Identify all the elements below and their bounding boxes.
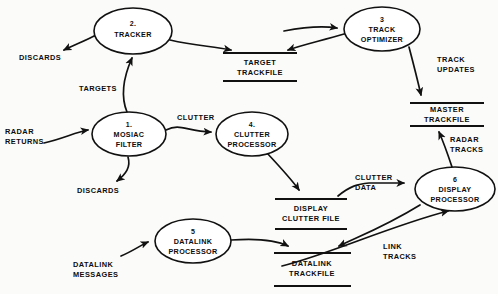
process-bubble-tracker[interactable]: 2. TRACKER: [94, 8, 172, 54]
flow-label-line2: UPDATES: [437, 65, 475, 74]
process-bubble-track-optimizer[interactable]: 3 TRACK OPTIMIZER: [344, 7, 420, 51]
process-name-line2: PROCESSOR: [168, 247, 218, 256]
process-bubble-display-processor[interactable]: 6 DISPLAY PROCESSOR: [415, 167, 495, 211]
flow-label-line1: CLUTTER: [355, 173, 393, 182]
flow-line-discards-mosiac: [117, 157, 129, 181]
data-flow-diagram: TARGET TRACKFILE MASTER TRACKFILE DISPLA…: [0, 0, 498, 294]
process-number: 4.: [249, 121, 255, 128]
flow-line-track-updates: [409, 47, 421, 95]
flow-label-line1: LINK: [383, 242, 402, 251]
store-label-line1: DATALINK: [292, 259, 332, 268]
data-store-datalink-trackfile: DATALINK TRACKFILE: [274, 253, 351, 286]
process-number: 2.: [130, 20, 136, 27]
process-name-line1: DATALINK: [174, 237, 213, 246]
flow-label-line1: TRACK: [437, 55, 465, 64]
process-name-line2: OPTIMIZER: [361, 35, 404, 44]
flow-line-clutter-processor-to-file: [267, 153, 299, 190]
flow-line-target-trackfile-to-optimizer: [284, 27, 337, 31]
process-number: 6: [453, 176, 457, 183]
flow-line-optimizer-to-target-trackfile: [288, 34, 344, 50]
flow-label-datalink-messages: DATALINK MESSAGES: [73, 260, 119, 279]
flow-label-line1: RADAR: [450, 135, 479, 144]
process-number: 1.: [126, 121, 132, 128]
flow-label-radar-returns: RADAR RETURNS: [5, 127, 44, 146]
process-name-line2: FILTER: [116, 140, 143, 149]
flow-line-display-processor-to-datalink-trackfile: [339, 205, 420, 246]
flow-line-datalink-messages: [121, 242, 148, 256]
process-number: 3: [380, 16, 384, 23]
data-store-master-trackfile: MASTER TRACKFILE: [410, 103, 484, 126]
flow-label-line1: DATALINK: [73, 260, 113, 269]
process-name-line1: CLUTTER: [234, 130, 270, 139]
process-name-line1: TRACK: [369, 25, 396, 34]
process-number: 5: [191, 228, 195, 235]
process-name-line1: DISPLAY: [439, 185, 472, 194]
store-label-line1: TARGET: [244, 58, 277, 67]
store-label-line1: DISPLAY: [294, 204, 329, 213]
store-label-line2: TRACKFILE: [424, 115, 470, 124]
process-bubble-datalink-processor[interactable]: 5 DATALINK PROCESSOR: [155, 219, 231, 263]
flow-label-link-tracks: LINK TRACKS: [383, 242, 417, 261]
flow-label-line2: TRACKS: [450, 145, 484, 154]
flow-label-line2: DATA: [355, 183, 376, 192]
process-name-line2: PROCESSOR: [227, 140, 277, 149]
flow-label-line1: CLUTTER: [177, 113, 215, 122]
flow-label-clutter: CLUTTER: [177, 113, 215, 122]
flow-label-discards-mosiac: DISCARDS: [77, 186, 119, 195]
data-store-target-trackfile: TARGET TRACKFILE: [223, 53, 297, 81]
flow-line-radar-returns: [44, 130, 88, 143]
flow-line-clutter: [166, 127, 211, 132]
diagram-canvas: TARGET TRACKFILE MASTER TRACKFILE DISPLA…: [0, 0, 498, 294]
flow-label-line1: TARGETS: [79, 84, 117, 93]
flow-label-line2: TRACKS: [383, 252, 417, 261]
process-name-line1: TRACKER: [114, 30, 152, 39]
process-bubble-clutter-processor[interactable]: 4. CLUTTER PROCESSOR: [216, 112, 288, 156]
flow-label-line1: DISCARDS: [19, 53, 61, 62]
store-label-line2: CLUTTER FILE: [282, 214, 340, 223]
flow-label-discards-tracker: DISCARDS: [19, 53, 61, 62]
flow-line-datalink-processor-to-trackfile: [231, 239, 288, 246]
store-label-line1: MASTER: [430, 105, 464, 114]
process-name-line1: MOSIAC: [114, 130, 145, 139]
flow-label-targets: TARGETS: [79, 84, 117, 93]
flow-line-targets: [123, 58, 132, 112]
flow-label-radar-tracks: RADAR TRACKS: [450, 135, 484, 154]
process-name-line2: PROCESSOR: [430, 195, 480, 204]
flow-label-track-updates: TRACK UPDATES: [437, 55, 475, 74]
data-store-display-clutter-file: DISPLAY CLUTTER FILE: [275, 199, 347, 229]
flow-line-tracker-to-target-trackfile: [170, 40, 231, 50]
store-label-line2: TRACKFILE: [289, 269, 335, 278]
process-bubble-mosiac-filter[interactable]: 1. MOSIAC FILTER: [92, 112, 166, 156]
flow-label-line1: RADAR: [5, 127, 34, 136]
store-label-line2: TRACKFILE: [237, 68, 283, 77]
flow-line-discards-tracker: [64, 35, 96, 50]
flow-label-line2: RETURNS: [5, 137, 44, 146]
flow-label-line1: DISCARDS: [77, 186, 119, 195]
flow-label-line2: MESSAGES: [73, 270, 119, 279]
